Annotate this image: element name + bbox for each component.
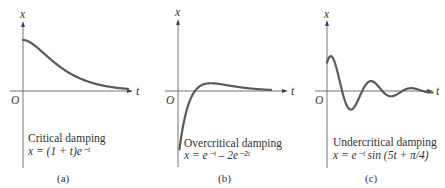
panel-b-caption: (b) [218, 172, 231, 185]
t-axis-arrow-icon [282, 89, 288, 93]
panel-a: x t O Critical damping x = (1 + t)e⁻ᵗ (a… [10, 8, 140, 185]
critical-damping-curve [23, 40, 128, 89]
panel-c-equation: x = e⁻ᵗ sin (5t + π/4) [332, 149, 429, 162]
origin-label: O [11, 94, 20, 106]
panel-a-equation: x = (1 + t)e⁻ᵗ [27, 145, 91, 158]
x-axis-label: x [323, 8, 330, 20]
panel-c-title: Undercritical damping [333, 136, 437, 149]
x-axis-arrow-icon [176, 19, 180, 25]
x-axis-arrow-icon [21, 21, 25, 27]
x-axis-label: x [19, 8, 26, 20]
t-axis-label: t [136, 85, 140, 97]
x-axis-arrow-icon [325, 20, 329, 26]
undercritical-damping-curve [327, 56, 433, 109]
origin-label: O [166, 94, 175, 106]
panel-b: x t O Overcritical damping x = e⁻ᵗ – 2e⁻… [165, 6, 295, 185]
panel-c-caption: (c) [365, 172, 378, 185]
x-axis-label: x [174, 6, 181, 18]
panel-b-equation: x = e⁻ᵗ – 2e⁻²ᵗ [183, 149, 250, 161]
t-axis-label: t [291, 85, 295, 97]
origin-label: O [315, 94, 324, 106]
panel-c: x t O Undercritical damping x = e⁻ᵗ sin … [315, 8, 440, 185]
damping-figure: x t O Critical damping x = (1 + t)e⁻ᵗ (a… [0, 0, 445, 188]
panel-a-caption: (a) [57, 172, 70, 185]
panel-a-title: Critical damping [28, 132, 106, 145]
t-axis-label: t [436, 85, 440, 97]
